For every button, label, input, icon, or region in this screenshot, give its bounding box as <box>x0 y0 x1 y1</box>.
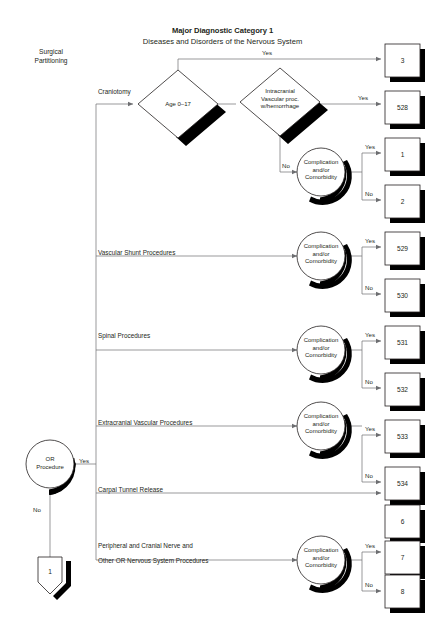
drg-box-number: 529 <box>385 245 420 252</box>
cc-node-5-line3: Comorbidity <box>297 562 345 570</box>
decision-intracranial-line2: Vascular proc. <box>240 96 320 104</box>
surgical-partitioning-line1: Surgical <box>16 48 86 57</box>
cc-node-3-line3: Comorbidity <box>297 352 345 360</box>
cc-node-2-line1: Complication <box>297 243 345 251</box>
cc-node-1-label: Complication and/or Comorbidity <box>297 159 345 182</box>
or-procedure-line1: OR <box>14 456 86 464</box>
branch-label-craniotomy: Craniotomy <box>98 88 131 95</box>
drg-box-number: 3 <box>385 57 420 64</box>
edge-label-cc4-no: No <box>365 472 373 479</box>
cc-node-3-label: Complication and/or Comorbidity <box>297 337 345 360</box>
flowchart-graphics <box>0 0 445 619</box>
branch-label-extracranial-vascular: Extracranial Vascular Procedures <box>98 419 192 426</box>
edge-label-cc2-no: No <box>365 284 373 291</box>
offpage-connector-1[interactable] <box>38 557 71 600</box>
drg-box-number: 531 <box>385 339 420 346</box>
edge-label-cc5-yes: Yes <box>365 542 375 549</box>
or-procedure-label: OR Procedure <box>14 456 86 471</box>
cc-node-3-line2: and/or <box>297 345 345 353</box>
drg-box-number: 532 <box>385 386 420 393</box>
edge-label-cc2-yes: Yes <box>365 237 375 244</box>
edge-label-age-yes: Yes <box>262 49 272 56</box>
edge-label-intracranial-yes: Yes <box>358 94 368 101</box>
cc-node-5-line2: and/or <box>297 555 345 563</box>
edge-label-cc1-no: No <box>365 190 373 197</box>
drg-box-number: 1 <box>385 151 420 158</box>
page-title: Major Diagnostic Category 1 <box>0 27 445 36</box>
edge-label-cc4-yes: Yes <box>365 425 375 432</box>
drg-box-number: 8 <box>385 588 420 595</box>
or-procedure-line2: Procedure <box>14 464 86 472</box>
drg-box-number: 533 <box>385 433 420 440</box>
cc-node-2-label: Complication and/or Comorbidity <box>297 243 345 266</box>
drg-box-layer <box>385 44 425 613</box>
edge-label-cc5-no: No <box>365 581 373 588</box>
drg-box-number: 2 <box>385 198 420 205</box>
drg-box-number: 534 <box>385 480 420 487</box>
surgical-partitioning-line2: Partitioning <box>16 57 86 66</box>
cc-node-2-line2: and/or <box>297 251 345 259</box>
cc-node-2-line3: Comorbidity <box>297 258 345 266</box>
drg-box-number: 7 <box>385 554 420 561</box>
decision-intracranial-line1: Intracranial <box>240 88 320 96</box>
cc-node-3-line1: Complication <box>297 337 345 345</box>
cc-node-5-label: Complication and/or Comorbidity <box>297 547 345 570</box>
branch-label-spinal: Spinal Procedures <box>98 332 150 339</box>
cc-node-1-line2: and/or <box>297 167 345 175</box>
cc-node-4-line2: and/or <box>297 421 345 429</box>
drg-box-number: 530 <box>385 292 420 299</box>
cc-node-5-line1: Complication <box>297 547 345 555</box>
cc-node-4-label: Complication and/or Comorbidity <box>297 413 345 436</box>
branch-label-peripheral-line2: Other OR Nervous System Procedures <box>98 557 208 564</box>
branch-label-vascular-shunt: Vascular Shunt Procedures <box>98 249 175 256</box>
edge-label-cc1-yes: Yes <box>365 143 375 150</box>
page-subtitle: Diseases and Disorders of the Nervous Sy… <box>0 38 445 47</box>
drg-box-number: 6 <box>385 518 420 525</box>
cc-node-1-line3: Comorbidity <box>297 174 345 182</box>
edge-label-cc3-yes: Yes <box>365 331 375 338</box>
cc-node-4-line1: Complication <box>297 413 345 421</box>
branch-label-carpal-tunnel: Carpal Tunnel Release <box>98 486 163 493</box>
edge-label-cc3-no: No <box>365 378 373 385</box>
edge-label-intracranial-no: No <box>282 162 290 169</box>
or-no-label: No <box>33 506 41 513</box>
drg-box-number: 528 <box>385 104 420 111</box>
branch-label-peripheral-line1: Peripheral and Cranial Nerve and <box>98 542 193 549</box>
decision-age-label: Age 0–17 <box>138 101 218 109</box>
cc-node-1-line1: Complication <box>297 159 345 167</box>
cc-node-4-line3: Comorbidity <box>297 428 345 436</box>
offpage-connector-number: 1 <box>34 568 66 575</box>
or-yes-label: Yes <box>79 457 89 464</box>
decision-intracranial-label: Intracranial Vascular proc. w/hemorrhage <box>240 88 320 111</box>
flowchart-canvas: Major Diagnostic Category 1 Diseases and… <box>0 0 445 619</box>
decision-intracranial-line3: w/hemorrhage <box>240 103 320 111</box>
surgical-partitioning-label: Surgical Partitioning <box>16 48 86 66</box>
